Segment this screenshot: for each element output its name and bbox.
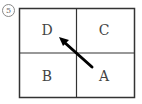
- grid-diagram: [0, 0, 142, 104]
- cell-label-top-right: C: [99, 22, 110, 38]
- cell-label-bottom-right: A: [99, 68, 109, 84]
- cell-label-top-left: D: [41, 22, 52, 38]
- cell-label-bottom-left: B: [42, 68, 52, 84]
- arrow-icon: [59, 37, 92, 67]
